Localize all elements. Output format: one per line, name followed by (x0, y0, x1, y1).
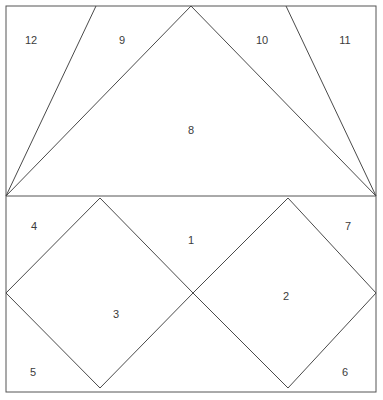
figure-line-art (0, 0, 383, 400)
region-label-11: 11 (339, 35, 350, 46)
region-label-5: 5 (30, 367, 36, 378)
region-label-6: 6 (342, 367, 348, 378)
region-label-3: 3 (113, 309, 119, 320)
region-label-1: 1 (188, 235, 194, 246)
region-label-7: 7 (345, 221, 351, 232)
region-label-9: 9 (119, 35, 125, 46)
outer-frame-rect (6, 6, 376, 392)
region-label-4: 4 (31, 221, 37, 232)
region-label-12: 12 (25, 35, 37, 46)
region-label-10: 10 (256, 35, 268, 46)
geometry-figure-canvas: 1 2 3 4 5 6 7 8 9 10 11 12 (0, 0, 383, 400)
region-label-2: 2 (283, 291, 289, 302)
region-label-8: 8 (188, 125, 194, 136)
